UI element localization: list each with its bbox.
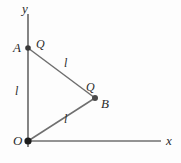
point-a-dot [25,45,31,51]
point-b-dot [92,95,98,101]
segment-ab-line [28,48,95,98]
charge-label-at-b: Q [86,81,95,93]
segment-ob-length-label: l [64,113,67,125]
charge-label-at-a: Q [36,38,45,50]
point-b-label: B [101,97,109,110]
point-origin-dot [24,137,31,144]
x-axis-label: x [166,134,172,147]
y-axis-label: y [22,2,28,15]
point-a-label: A [13,41,21,54]
point-origin-label: O [13,134,22,147]
segment-ab-length-label: l [64,57,67,69]
figure-container: y x A B O Q Q l l l [0,0,181,163]
segment-oa-length-label: l [15,85,18,97]
segment-ob-line [28,98,95,141]
